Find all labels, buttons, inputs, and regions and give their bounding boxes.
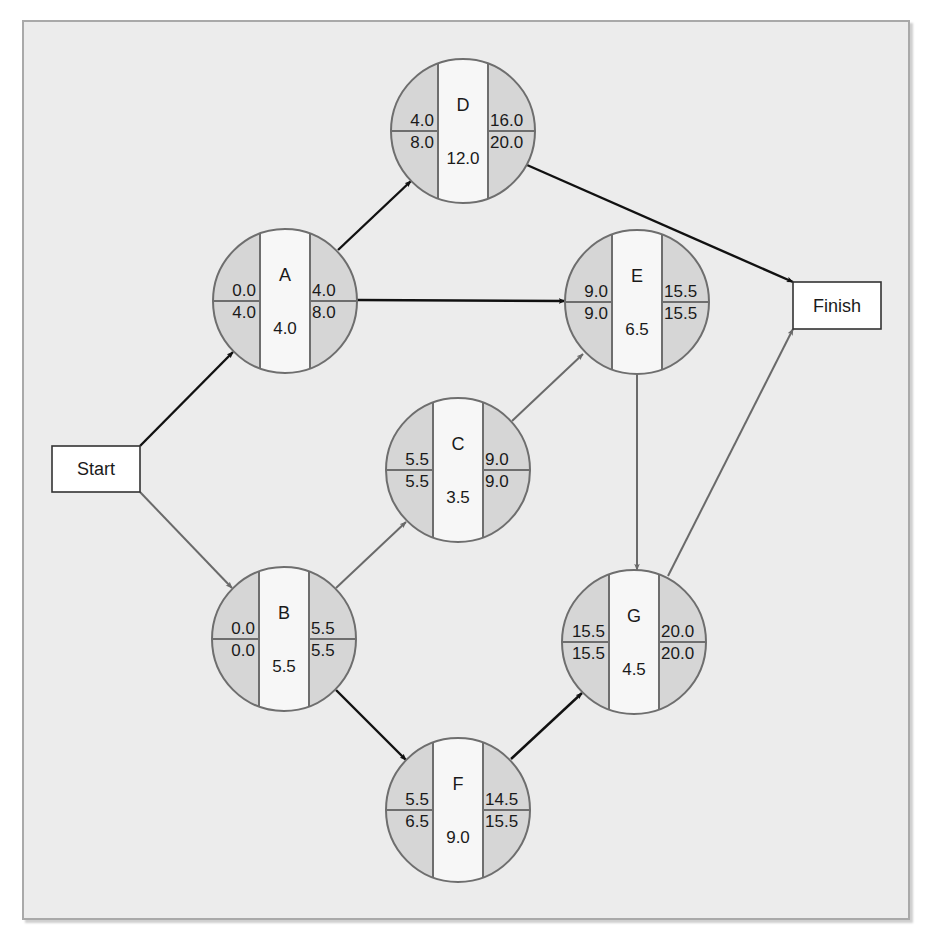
earliest-finish: 9.0 bbox=[485, 450, 509, 469]
latest-start: 9.0 bbox=[584, 304, 608, 323]
latest-start: 0.0 bbox=[231, 641, 255, 660]
earliest-start: 4.0 bbox=[410, 111, 434, 130]
activity-duration: 5.5 bbox=[272, 657, 296, 676]
arrow-start-to-a bbox=[140, 352, 233, 446]
activity-duration: 6.5 bbox=[625, 320, 649, 339]
activity-node-c: C5.55.59.09.03.5 bbox=[386, 398, 530, 542]
arrow-g-to-finish bbox=[668, 329, 793, 576]
arrow-start-to-b bbox=[140, 492, 232, 588]
earliest-finish: 16.0 bbox=[490, 111, 523, 130]
activity-duration: 3.5 bbox=[446, 488, 470, 507]
activity-duration: 4.0 bbox=[273, 319, 297, 338]
activity-label: F bbox=[453, 774, 464, 794]
network-diagram: A0.04.04.08.04.0B0.00.05.55.55.5C5.55.59… bbox=[0, 0, 930, 938]
latest-start: 4.0 bbox=[232, 303, 256, 322]
finish-box: Finish bbox=[793, 282, 881, 329]
activity-duration: 4.5 bbox=[622, 660, 646, 679]
activity-label: G bbox=[627, 606, 641, 626]
activity-label: B bbox=[278, 603, 290, 623]
latest-finish: 20.0 bbox=[490, 133, 523, 152]
earliest-finish: 5.5 bbox=[311, 619, 335, 638]
activity-node-f: F5.56.514.515.59.0 bbox=[386, 738, 530, 882]
latest-finish: 20.0 bbox=[661, 644, 694, 663]
arrow-a-to-d bbox=[338, 181, 411, 250]
latest-finish: 9.0 bbox=[485, 472, 509, 491]
earliest-finish: 15.5 bbox=[664, 282, 697, 301]
arrow-a-to-e bbox=[357, 300, 565, 301]
activity-node-e: E9.09.015.515.56.5 bbox=[565, 230, 709, 374]
latest-start: 6.5 bbox=[405, 812, 429, 831]
earliest-start: 5.5 bbox=[405, 450, 429, 469]
activity-node-a: A0.04.04.08.04.0 bbox=[213, 229, 357, 373]
latest-finish: 5.5 bbox=[311, 641, 335, 660]
earliest-start: 0.0 bbox=[232, 281, 256, 300]
activity-node-g: G15.515.520.020.04.5 bbox=[562, 570, 706, 714]
arrow-c-to-e bbox=[512, 354, 583, 421]
start-box: Start bbox=[52, 446, 140, 492]
earliest-finish: 14.5 bbox=[485, 790, 518, 809]
earliest-start: 5.5 bbox=[405, 790, 429, 809]
activity-duration: 12.0 bbox=[446, 149, 479, 168]
latest-start: 8.0 bbox=[410, 133, 434, 152]
latest-finish: 15.5 bbox=[485, 812, 518, 831]
latest-start: 15.5 bbox=[572, 644, 605, 663]
activity-label: E bbox=[631, 266, 643, 286]
finish-label: Finish bbox=[813, 296, 861, 316]
activity-label: A bbox=[279, 265, 291, 285]
earliest-start: 0.0 bbox=[231, 619, 255, 638]
latest-finish: 8.0 bbox=[312, 303, 336, 322]
activity-duration: 9.0 bbox=[446, 828, 470, 847]
latest-finish: 15.5 bbox=[664, 304, 697, 323]
arrow-b-to-f bbox=[336, 690, 406, 760]
earliest-start: 15.5 bbox=[572, 622, 605, 641]
nodes-layer: A0.04.04.08.04.0B0.00.05.55.55.5C5.55.59… bbox=[212, 59, 709, 882]
activity-node-b: B0.00.05.55.55.5 bbox=[212, 567, 356, 711]
activity-label: D bbox=[457, 95, 470, 115]
activity-node-d: D4.08.016.020.012.0 bbox=[391, 59, 535, 203]
latest-start: 5.5 bbox=[405, 472, 429, 491]
arrow-f-to-g bbox=[511, 693, 582, 759]
start-label: Start bbox=[77, 459, 115, 479]
earliest-finish: 20.0 bbox=[661, 622, 694, 641]
earliest-finish: 4.0 bbox=[312, 281, 336, 300]
activity-label: C bbox=[452, 434, 465, 454]
arrow-b-to-c bbox=[336, 522, 406, 588]
earliest-start: 9.0 bbox=[584, 282, 608, 301]
